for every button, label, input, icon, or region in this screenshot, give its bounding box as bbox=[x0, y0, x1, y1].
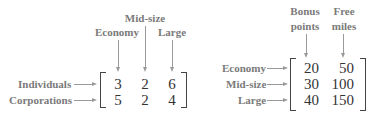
arrow-down-icon bbox=[343, 34, 344, 54]
matrix-cell: 5 bbox=[110, 93, 126, 108]
right-bracket bbox=[181, 72, 187, 108]
arrowhead-down-icon bbox=[170, 67, 174, 72]
matrix-cell: 3 bbox=[110, 77, 126, 92]
matrix-cell: 50 bbox=[335, 61, 354, 76]
matrix-cell: 100 bbox=[331, 77, 354, 92]
arrowhead-down-icon bbox=[143, 67, 147, 72]
arrowhead-right-icon bbox=[92, 98, 97, 102]
arrowhead-down-icon bbox=[304, 53, 308, 58]
matrix-cell: 2 bbox=[137, 77, 153, 92]
left-bracket bbox=[290, 58, 296, 111]
right-col-label-free-line2: miles bbox=[326, 21, 362, 32]
right-col-label-bonus-line1: Bonus bbox=[287, 6, 323, 17]
arrow-down-icon bbox=[306, 34, 307, 54]
matrix-cell: 40 bbox=[304, 93, 319, 108]
left-col-label-large: Large bbox=[150, 27, 194, 38]
right-row-label-midsize: Mid-size bbox=[226, 79, 266, 90]
matrix-cell: 4 bbox=[164, 93, 180, 108]
arrow-right-icon bbox=[74, 100, 93, 101]
right-col-label-bonus-line2: points bbox=[287, 21, 323, 32]
arrowhead-right-icon bbox=[283, 66, 288, 70]
matrix-cell: 20 bbox=[304, 61, 319, 76]
arrow-right-icon bbox=[267, 68, 284, 69]
arrow-down-icon bbox=[172, 40, 173, 68]
arrow-right-icon bbox=[74, 84, 93, 85]
arrow-down-icon bbox=[145, 26, 146, 68]
arrow-right-icon bbox=[267, 100, 284, 101]
matrix-cell: 6 bbox=[164, 77, 180, 92]
arrowhead-right-icon bbox=[92, 82, 97, 86]
arrowhead-right-icon bbox=[283, 98, 288, 102]
arrow-down-icon bbox=[118, 40, 119, 68]
right-row-label-economy: Economy bbox=[222, 63, 266, 74]
left-col-label-midsize: Mid-size bbox=[120, 13, 170, 24]
arrowhead-down-icon bbox=[116, 67, 120, 72]
matrix-cell: 150 bbox=[331, 93, 354, 108]
arrowhead-right-icon bbox=[283, 82, 288, 86]
matrix-cell: 2 bbox=[137, 93, 153, 108]
left-col-label-economy: Economy bbox=[92, 27, 142, 38]
left-row-label-individuals: Individuals bbox=[18, 79, 71, 90]
arrow-right-icon bbox=[267, 84, 284, 85]
left-bracket bbox=[100, 72, 106, 108]
arrowhead-down-icon bbox=[341, 53, 345, 58]
right-row-label-large: Large bbox=[238, 95, 266, 106]
right-bracket bbox=[360, 58, 366, 111]
right-col-label-free-line1: Free bbox=[326, 6, 362, 17]
matrix-cell: 30 bbox=[304, 77, 319, 92]
left-row-label-corporations: Corporations bbox=[9, 95, 72, 106]
